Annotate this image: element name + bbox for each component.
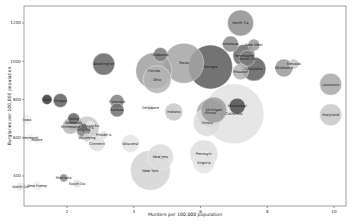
bubble-label: Tennessee <box>234 54 255 58</box>
bubble-label: Wisconsi <box>123 142 139 146</box>
bubble-label: Kansas <box>111 108 124 112</box>
bubble-label: Indiana <box>167 110 180 114</box>
bubble-label: Louisiana <box>245 67 262 71</box>
bubble-label: Maryland <box>322 113 339 117</box>
x-axis-label: Murders per 100,000 population <box>148 212 222 217</box>
bubble-label: Colorado <box>109 100 125 104</box>
bubble-label: Massachu <box>81 124 99 128</box>
bubble-label: Wyoming <box>79 136 96 140</box>
bubble-label: California <box>225 112 242 116</box>
x-tick-label: 8 <box>266 209 269 214</box>
bubble-label: Washington <box>93 62 114 66</box>
bubble-label: Florida <box>148 69 160 73</box>
bubble-label: New York <box>142 169 159 173</box>
y-tick-label: 1000 <box>10 59 21 64</box>
y-tick-label: 600 <box>13 135 21 140</box>
bubble-label: Montana <box>56 176 72 180</box>
bubble-label: North Ca <box>233 21 249 25</box>
bubble-label: Illinois <box>205 111 217 115</box>
y-tick-label: 800 <box>13 97 21 102</box>
bubble-label: Alabama <box>153 53 169 57</box>
bubble-label: Texas <box>178 61 189 65</box>
plot-background <box>24 6 346 206</box>
bubble-label: North Da <box>12 185 28 189</box>
y-tick-label: 400 <box>13 173 21 178</box>
bubble-label: Illinois <box>201 121 213 125</box>
bubble-label: Missouri <box>233 70 248 74</box>
bubble-label: Connecti <box>89 142 105 146</box>
bubble-label: Pennsylv <box>196 152 213 156</box>
y-tick-label: 1200 <box>10 20 21 25</box>
bubble-label: New Mexi <box>245 43 262 47</box>
bubble-label: Ohio <box>153 78 161 82</box>
bubble-label: Virginia <box>77 128 91 132</box>
y-axis-ticks: 40060080010001200 <box>10 20 24 178</box>
x-tick-label: 4 <box>132 209 135 214</box>
bubble-label: Virginia <box>197 161 211 165</box>
bubble-label: New Hamp <box>27 184 47 188</box>
bubble-label: Oklahoma <box>275 66 293 70</box>
bubble-label: Rhode Is <box>96 133 112 137</box>
x-tick-label: 2 <box>66 209 69 214</box>
bubble-label: Oregon <box>54 99 67 103</box>
bubble-label: Utah <box>43 98 52 102</box>
bubble-label: South Da <box>69 182 86 186</box>
bubble-label: Louisiana <box>322 83 339 87</box>
bubble-label: Georgia <box>203 65 217 69</box>
bubble-chart: North CaArkansasNew MexiSouth CaTennesse… <box>0 0 359 222</box>
bubble-label: Arkansas <box>222 42 239 46</box>
bubble-label: New Jers <box>153 155 169 159</box>
bubble-label: Maine <box>32 138 44 142</box>
bubble-label: Mississippi <box>228 104 247 108</box>
y-axis-label: Burglaries per 100,000 population <box>7 67 12 146</box>
bubble-label: Delaware <box>142 106 160 110</box>
x-tick-label: 10 <box>331 209 337 214</box>
bubble-label: Nevada <box>287 62 301 66</box>
